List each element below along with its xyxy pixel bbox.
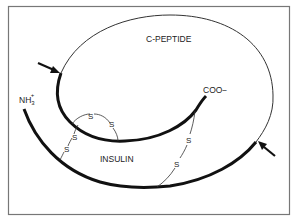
proinsulin-diagram: S S S S S S C-PEPTIDE INSULIN NH3+ COO− [0,0,292,222]
sulfur-label: S [174,160,179,169]
sulfur-label: S [64,145,69,154]
insulin-label: INSULIN [100,154,134,164]
sulfur-label: S [88,112,93,121]
sulfur-label: S [109,120,114,129]
sulfur-label: S [72,133,77,142]
c-peptide-label: C-PEPTIDE [146,34,192,44]
c-terminus-label: COO− [203,85,227,95]
sulfur-label: S [186,136,191,145]
